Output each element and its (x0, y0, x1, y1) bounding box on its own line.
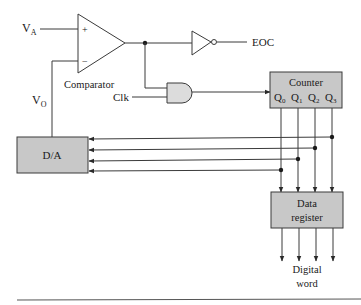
dac-label: D/A (43, 149, 62, 161)
counter-block: Counter Q0 Q1 Q2 Q3 (270, 72, 342, 108)
vo-label: VO (32, 93, 47, 109)
minus-sign: − (82, 56, 88, 67)
comparator: + − (78, 14, 125, 73)
eoc-label: EOC (252, 36, 274, 48)
counter-title: Counter (289, 77, 323, 88)
counter-bus (281, 108, 332, 192)
bus-junction-dots (279, 135, 334, 172)
dac-bus (89, 137, 332, 171)
adc-diagram: VA + − Comparator VO EOC Clk Counter Q0 … (0, 0, 361, 305)
comparator-label: Comparator (64, 79, 115, 90)
inverter-gate (192, 31, 217, 55)
and-gate (167, 83, 192, 103)
plus-sign: + (82, 24, 88, 35)
bottom-rule (17, 299, 361, 300)
output-label-line2: word (296, 278, 318, 289)
data-register-block: Data register (271, 192, 343, 228)
data-register-line1: Data (297, 198, 317, 209)
va-label: VA (22, 21, 37, 37)
clk-label: Clk (113, 91, 129, 103)
data-register-line2: register (291, 212, 323, 223)
dac-block: D/A (17, 137, 88, 173)
output-bus (282, 228, 333, 261)
output-label-line1: Digital (292, 264, 321, 275)
